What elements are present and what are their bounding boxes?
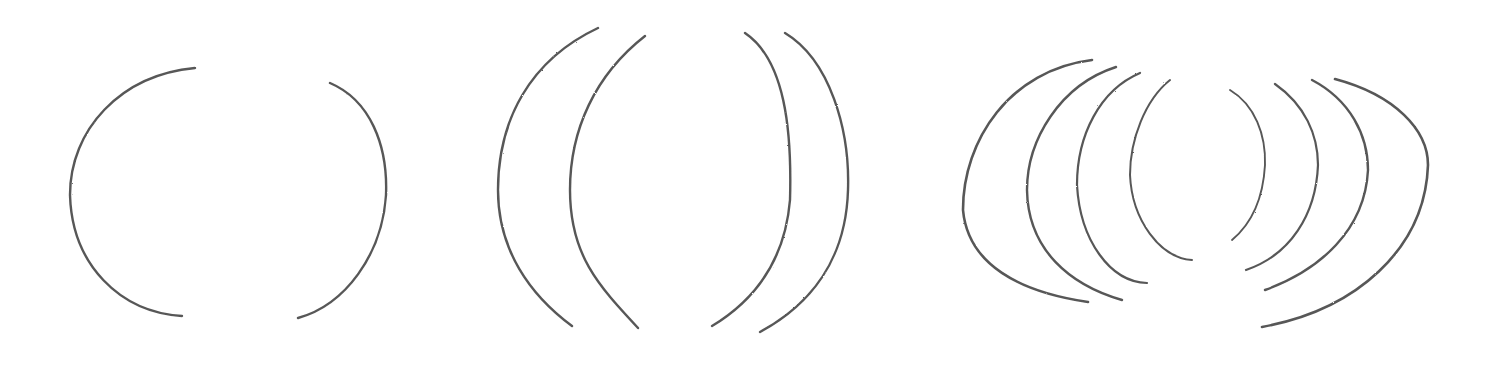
paper-background <box>0 0 1492 365</box>
sketch-canvas <box>0 0 1492 365</box>
